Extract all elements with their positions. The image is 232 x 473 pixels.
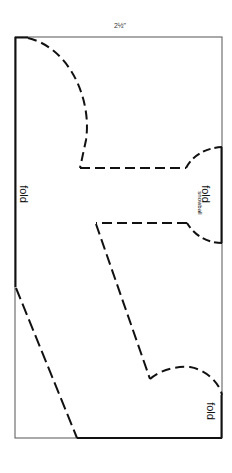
inner-leg-dashed: [96, 224, 150, 379]
snowball-label: snowball: [197, 183, 203, 223]
outer-leg-dashed: [16, 288, 77, 438]
fold-label-right-bottom: fold: [205, 396, 217, 426]
pattern-diagram: 2½" fold fold snowball fold: [0, 0, 232, 473]
foot-arc-dashed: [150, 367, 222, 395]
hand-bottom-arc: [187, 223, 222, 243]
fold-label-left: fold: [18, 174, 30, 214]
head-arc-dashed: [28, 38, 87, 168]
frame-rectangle: [15, 37, 222, 438]
hand-top-arc: [186, 147, 222, 168]
pattern-lines: [0, 0, 232, 473]
dimension-label: 2½": [100, 22, 140, 29]
